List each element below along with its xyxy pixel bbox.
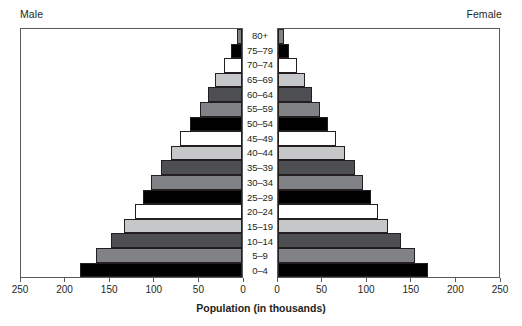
male-bar-40-44 [171, 146, 242, 161]
table-row [21, 131, 242, 146]
table-row [278, 73, 499, 88]
table-row [278, 131, 499, 146]
female-axis-tick [277, 278, 278, 282]
male-axis-tick [109, 278, 110, 282]
table-row [21, 233, 242, 248]
female-bar-10-14 [278, 233, 401, 248]
table-row [278, 219, 499, 234]
table-row [21, 146, 242, 161]
male-axis-tick [64, 278, 65, 282]
age-group-label: 35–39 [243, 160, 277, 175]
age-group-label: 10–14 [243, 234, 277, 249]
male-axis-tick [198, 278, 199, 282]
age-group-label: 55–59 [243, 102, 277, 117]
female-bar-70-74 [278, 58, 297, 73]
age-group-label: 30–34 [243, 175, 277, 190]
male-bar-5-9 [96, 248, 242, 263]
table-row [21, 29, 242, 44]
table-row [278, 263, 499, 278]
female-plot-area [277, 28, 500, 278]
table-row [278, 248, 499, 263]
male-bar-45-49 [180, 131, 242, 146]
age-group-label: 20–24 [243, 204, 277, 219]
male-axis-tick-labels: 050100150200250 [20, 284, 243, 298]
male-bar-65-69 [215, 73, 242, 88]
female-axis-tick [366, 278, 367, 282]
female-axis-tick-label: 50 [316, 284, 327, 295]
male-axis-tick [243, 278, 244, 282]
male-axis-tick-label: 250 [12, 284, 29, 295]
male-bar-50-54 [190, 117, 242, 132]
table-row [21, 73, 242, 88]
male-bar-75-79 [231, 44, 242, 59]
male-axis-tick [153, 278, 154, 282]
male-axis-ticks [20, 278, 243, 283]
table-row [278, 175, 499, 190]
female-axis-tick [321, 278, 322, 282]
male-bar-55-59 [200, 102, 242, 117]
male-plot-area [20, 28, 243, 278]
male-bar-35-39 [161, 160, 242, 175]
table-row [278, 102, 499, 117]
female-bar-60-64 [278, 87, 312, 102]
male-bar-rows [21, 29, 242, 277]
female-axis-tick-label: 200 [447, 284, 464, 295]
table-row [21, 248, 242, 263]
female-bar-5-9 [278, 248, 415, 263]
age-group-label: 15–19 [243, 219, 277, 234]
female-bar-20-24 [278, 204, 378, 219]
female-axis-tick-label: 0 [274, 284, 280, 295]
male-bar-70-74 [224, 58, 242, 73]
table-row [278, 204, 499, 219]
table-row [21, 190, 242, 205]
x-axis-title: Population (in thousands) [0, 302, 522, 314]
table-row [21, 102, 242, 117]
female-side-label: Female [466, 8, 502, 20]
age-group-label: 5–9 [243, 249, 277, 264]
table-row [21, 263, 242, 278]
age-group-label: 60–64 [243, 87, 277, 102]
table-row [278, 146, 499, 161]
table-row [278, 233, 499, 248]
male-axis-tick-label: 200 [56, 284, 73, 295]
male-axis-tick-label: 100 [145, 284, 162, 295]
female-axis-tick-label: 250 [492, 284, 509, 295]
female-axis-tick-label: 150 [402, 284, 419, 295]
table-row [21, 117, 242, 132]
male-axis-tick-label: 0 [240, 284, 246, 295]
age-group-label: 75–79 [243, 43, 277, 58]
female-bar-50-54 [278, 117, 328, 132]
male-bar-10-14 [111, 233, 242, 248]
male-axis-tick [20, 278, 21, 282]
female-bar-65-69 [278, 73, 305, 88]
age-group-label: 70–74 [243, 57, 277, 72]
population-pyramid-chart: Male Female 80+75–7970–7465–6960–6455–59… [0, 0, 522, 326]
male-bar-30-34 [151, 175, 242, 190]
table-row [278, 160, 499, 175]
female-bar-75-79 [278, 44, 289, 59]
male-axis-tick-label: 50 [193, 284, 204, 295]
age-group-label: 65–69 [243, 72, 277, 87]
male-bar-25-29 [143, 190, 242, 205]
female-bar-35-39 [278, 160, 355, 175]
female-axis-tick [410, 278, 411, 282]
table-row [21, 175, 242, 190]
age-group-label: 25–29 [243, 190, 277, 205]
male-side-label: Male [20, 8, 43, 20]
table-row [278, 58, 499, 73]
age-group-label: 45–49 [243, 131, 277, 146]
table-row [21, 87, 242, 102]
female-bar-55-59 [278, 102, 320, 117]
female-axis-tick-labels: 050100150200250 [277, 284, 500, 298]
age-group-label: 80+ [243, 28, 277, 43]
table-row [278, 190, 499, 205]
table-row [278, 29, 499, 44]
female-axis-ticks [277, 278, 500, 283]
table-row [21, 160, 242, 175]
male-bar-0-4 [80, 263, 242, 278]
age-group-labels: 80+75–7970–7465–6960–6455–5950–5445–4940… [243, 28, 277, 278]
female-axis-tick [455, 278, 456, 282]
table-row [21, 58, 242, 73]
female-bar-25-29 [278, 190, 371, 205]
female-axis-tick-label: 100 [358, 284, 375, 295]
